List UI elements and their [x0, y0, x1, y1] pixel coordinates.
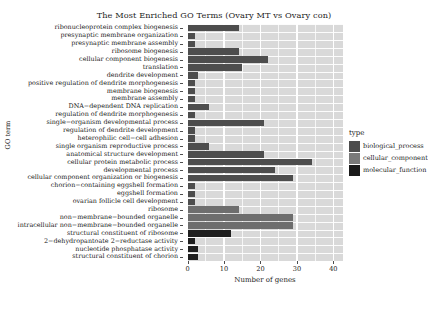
- x-axis-tick-label: 20: [256, 265, 264, 273]
- y-axis-label: anatomical structure development: [66, 151, 178, 158]
- y-axis-tick: [180, 170, 183, 171]
- y-axis-title: GO term: [4, 115, 12, 155]
- y-axis-tick: [180, 52, 183, 53]
- x-axis-tick-label: 40: [329, 265, 337, 273]
- y-axis-label: ribosome: [148, 206, 178, 213]
- y-axis-tick: [180, 131, 183, 132]
- bar: [188, 238, 195, 244]
- horizontal-gridline: [188, 143, 343, 144]
- bar: [188, 206, 239, 212]
- bar: [188, 48, 239, 54]
- x-axis-tick: [224, 261, 225, 264]
- y-axis-label: heterophilic cell−cell adhesion: [78, 135, 178, 142]
- go-enrichment-bar-chart: The Most Enriched GO Terms (Ovary MT vs …: [0, 0, 428, 313]
- y-axis-tick: [180, 99, 183, 100]
- legend-item: molecular_function: [349, 164, 428, 176]
- y-axis-label: ribosome biogenesis: [112, 48, 178, 55]
- y-axis-tick: [180, 210, 183, 211]
- y-axis-tick: [180, 202, 183, 203]
- y-axis-tick: [180, 28, 183, 29]
- bar: [188, 80, 195, 86]
- y-axis-tick: [180, 186, 183, 187]
- y-axis-tick: [180, 194, 183, 195]
- horizontal-gridline: [188, 190, 343, 191]
- legend-title: type: [349, 129, 428, 137]
- x-axis-title: Number of genes: [188, 276, 343, 284]
- x-axis-tick: [297, 261, 298, 264]
- y-axis-label: regulation of dendrite development: [63, 127, 178, 134]
- horizontal-gridline: [188, 40, 343, 41]
- bar: [188, 254, 199, 260]
- bar: [188, 246, 199, 252]
- bar: [188, 199, 195, 205]
- y-axis-label: 2−dehydropantoate 2−reductase activity: [44, 238, 178, 245]
- bar: [188, 104, 210, 110]
- bar: [188, 112, 195, 118]
- bar: [188, 143, 210, 149]
- horizontal-gridline: [188, 245, 343, 246]
- y-axis-tick: [180, 75, 183, 76]
- y-axis-tick: [180, 36, 183, 37]
- y-axis-tick: [180, 44, 183, 45]
- plot-panel: [188, 24, 343, 261]
- legend-swatch: [349, 153, 360, 164]
- y-axis-label: non−membrane−bounded organelle: [60, 214, 178, 221]
- y-axis-tick: [180, 60, 183, 61]
- horizontal-gridline: [188, 32, 343, 33]
- y-axis-tick: [180, 249, 183, 250]
- legend-item: biological_process: [349, 140, 428, 152]
- bar: [188, 175, 294, 181]
- bar: [188, 230, 232, 236]
- x-axis-tick-label: 0: [185, 265, 189, 273]
- horizontal-gridline: [188, 127, 343, 128]
- horizontal-gridline: [188, 182, 343, 183]
- horizontal-gridline: [188, 253, 343, 254]
- bar: [188, 88, 195, 94]
- horizontal-gridline: [188, 135, 343, 136]
- horizontal-gridline: [188, 72, 343, 73]
- y-axis-label: structural constituent of chorion: [72, 253, 178, 260]
- y-axis-tick: [180, 178, 183, 179]
- bar: [188, 159, 312, 165]
- y-axis-label: cellular component biogenesis: [79, 56, 178, 63]
- bar: [188, 183, 195, 189]
- y-axis-tick: [180, 218, 183, 219]
- y-axis-tick: [180, 123, 183, 124]
- horizontal-gridline: [188, 198, 343, 199]
- y-axis-tick: [180, 146, 183, 147]
- horizontal-gridline: [188, 87, 343, 88]
- y-axis-tick: [180, 154, 183, 155]
- horizontal-gridline: [188, 111, 343, 112]
- y-axis-tick: [180, 241, 183, 242]
- x-axis-tick-label: 30: [293, 265, 301, 273]
- y-axis-tick: [180, 225, 183, 226]
- y-axis-tick: [180, 67, 183, 68]
- y-axis-label: structural constituent of ribosome: [67, 230, 178, 237]
- y-axis-tick: [180, 115, 183, 116]
- x-axis-tick: [333, 261, 334, 264]
- bar: [188, 41, 195, 47]
- horizontal-gridline: [188, 95, 343, 96]
- y-axis-tick: [180, 83, 183, 84]
- y-axis-tick: [180, 257, 183, 258]
- legend-label: molecular_function: [363, 166, 426, 174]
- bar: [188, 120, 265, 126]
- x-axis-tick-label: 10: [220, 265, 228, 273]
- y-axis-label: positive regulation of dendrite morphoge…: [28, 80, 178, 87]
- y-axis-tick: [180, 91, 183, 92]
- legend-label: biological_process: [363, 142, 424, 150]
- legend-swatch: [349, 165, 360, 176]
- bar: [188, 56, 268, 62]
- y-axis-label: intracellular non−membrane−bounded organ…: [18, 222, 178, 229]
- bar: [188, 222, 294, 228]
- horizontal-gridline: [188, 103, 343, 104]
- horizontal-gridline: [188, 79, 343, 80]
- y-axis-tick: [180, 162, 183, 163]
- bar: [188, 96, 195, 102]
- y-axis-label: translation: [143, 64, 178, 71]
- bar: [188, 127, 195, 133]
- horizontal-gridline: [188, 237, 343, 238]
- bar: [188, 214, 294, 220]
- bar: [188, 33, 195, 39]
- y-axis-label: single organism reproductive process: [56, 143, 178, 150]
